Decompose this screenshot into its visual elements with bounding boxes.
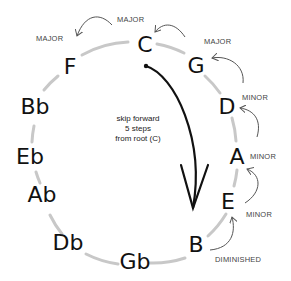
- arrow-a-to-d-icon: [240, 108, 258, 137]
- note-a: A: [229, 144, 244, 169]
- note-b: B: [188, 232, 203, 257]
- arrow-d-to-g-icon: [212, 57, 243, 83]
- label-minor-d: MINOR: [242, 93, 268, 102]
- arrow-e-to-a-icon: [245, 169, 258, 203]
- note-bb: Bb: [20, 94, 49, 119]
- note-eb: Eb: [16, 144, 44, 169]
- note-gb: Gb: [119, 249, 150, 274]
- skip-arrow-start-dot: [144, 64, 148, 68]
- arrow-g-to-c-icon: [155, 25, 185, 37]
- note-g: G: [187, 53, 204, 78]
- notes: C G D A E B Gb Db Ab Eb Bb F: [16, 32, 244, 274]
- note-e: E: [221, 189, 235, 214]
- label-major-f: MAJOR: [36, 34, 64, 43]
- note-c: C: [137, 32, 152, 57]
- center-text-line-2: 5 steps: [125, 124, 151, 133]
- label-diminished-b: DIMINISHED: [215, 255, 262, 264]
- label-major-g: MAJOR: [204, 37, 232, 46]
- note-ab: Ab: [27, 182, 56, 207]
- label-major-c: MAJOR: [117, 15, 145, 24]
- center-text-line-3: from root (C): [115, 134, 161, 143]
- quality-arrows: [77, 17, 258, 250]
- arrow-c-to-f-icon: [77, 17, 112, 36]
- circle-of-fifths-diagram: C G D A E B Gb Db Ab Eb Bb F MAJOR MAJOR…: [0, 0, 291, 281]
- center-text: skip forward 5 steps from root (C): [115, 114, 161, 143]
- note-f: F: [64, 54, 77, 79]
- label-minor-e: MINOR: [246, 210, 272, 219]
- center-text-line-1: skip forward: [116, 114, 159, 123]
- note-d: D: [219, 94, 236, 119]
- note-db: Db: [53, 230, 84, 255]
- label-minor-a: MINOR: [250, 152, 276, 161]
